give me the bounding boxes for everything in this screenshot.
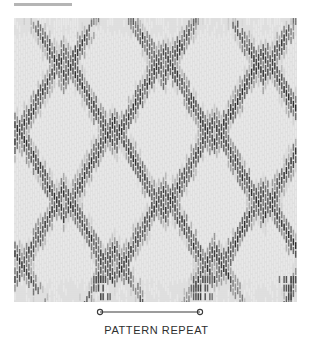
section-rule [14, 3, 72, 6]
figure-page: PATTERN REPEAT [0, 0, 313, 345]
pattern-repeat-dimension [0, 305, 313, 323]
pattern-repeat-label: PATTERN REPEAT [0, 324, 313, 336]
pattern-swatch [14, 18, 297, 302]
pattern-swatch-canvas [14, 18, 297, 302]
dimension-bracket-icon [0, 305, 313, 323]
